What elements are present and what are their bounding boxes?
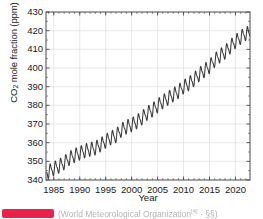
x-axis-title: Year xyxy=(46,192,250,203)
caption-text-after: · §§) xyxy=(198,208,218,218)
source-badge xyxy=(2,209,54,218)
caption-reference: [4] xyxy=(191,208,198,214)
caption-text-before: (World Meteorological Organization xyxy=(58,208,191,218)
co2-chart-figure: CO2 mole fraction (ppm) 3403503603703803… xyxy=(0,0,263,219)
caption-text: (World Meteorological Organization[4] · … xyxy=(58,208,218,219)
figure-caption: (World Meteorological Organization[4] · … xyxy=(0,207,263,219)
